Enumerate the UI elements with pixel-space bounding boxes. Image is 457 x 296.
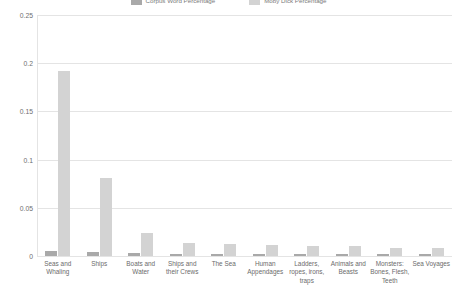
bar <box>58 71 70 256</box>
y-tick-label: 0.2 <box>0 60 33 67</box>
x-tick-label: Boats and Water <box>120 260 162 296</box>
bar <box>390 248 402 256</box>
bar-group <box>245 15 287 256</box>
plot-area <box>37 15 452 256</box>
bar <box>253 254 265 256</box>
x-tick-label: Sea Voyages <box>411 260 453 296</box>
bar <box>294 254 306 256</box>
gridline-0 <box>37 256 452 257</box>
legend-swatch-corpus <box>131 0 142 5</box>
x-tick-label: Ladders, ropes, irons, traps <box>286 260 328 296</box>
bar <box>307 246 319 256</box>
bar <box>128 253 140 256</box>
bar <box>211 254 223 256</box>
bar-chart: Corpus Word Percentage Moby Dick Percent… <box>0 0 457 296</box>
bar <box>224 244 236 256</box>
bar-group <box>79 15 121 256</box>
legend-label-corpus: Corpus Word Percentage <box>146 0 216 5</box>
y-tick-label: 0 <box>0 253 33 260</box>
bar <box>100 178 112 256</box>
x-tick-label: Seas and Whaling <box>37 260 79 296</box>
legend-label-mobydick: Moby Dick Percentage <box>264 0 326 5</box>
bar-group <box>162 15 204 256</box>
bar <box>432 248 444 256</box>
bar <box>349 246 361 256</box>
x-tick-label: Ships and their Crews <box>162 260 204 296</box>
y-tick-label: 0.25 <box>0 12 33 19</box>
x-tick-label: Human Appendages <box>245 260 287 296</box>
bar-groups <box>37 15 452 256</box>
bar <box>141 233 153 256</box>
x-tick-label: Ships <box>79 260 121 296</box>
bar-group <box>286 15 328 256</box>
bar-group <box>328 15 370 256</box>
y-tick-label: 0.05 <box>0 204 33 211</box>
legend-swatch-mobydick <box>249 0 260 5</box>
x-axis-labels: Seas and WhalingShipsBoats and WaterShip… <box>37 260 452 296</box>
bar <box>336 254 348 256</box>
x-tick-label: The Sea <box>203 260 245 296</box>
bar <box>377 254 389 256</box>
bar-group <box>411 15 453 256</box>
bar <box>170 254 182 256</box>
bar-group <box>120 15 162 256</box>
bar <box>266 245 278 256</box>
legend-entry-0: Corpus Word Percentage <box>131 0 216 5</box>
bar-group <box>37 15 79 256</box>
chart-legend: Corpus Word Percentage Moby Dick Percent… <box>0 0 457 6</box>
y-tick-label: 0.1 <box>0 156 33 163</box>
bar <box>183 243 195 256</box>
y-axis-labels: 00.050.10.150.20.25 <box>0 15 33 256</box>
bar <box>45 251 57 256</box>
bar <box>419 254 431 256</box>
x-tick-label: Monsters: Bones, Flesh, Teeth <box>369 260 411 296</box>
legend-entry-1: Moby Dick Percentage <box>249 0 326 5</box>
y-tick-label: 0.15 <box>0 108 33 115</box>
bar-group <box>203 15 245 256</box>
x-tick-label: Animals and Beasts <box>328 260 370 296</box>
bar <box>87 252 99 256</box>
bar-group <box>369 15 411 256</box>
